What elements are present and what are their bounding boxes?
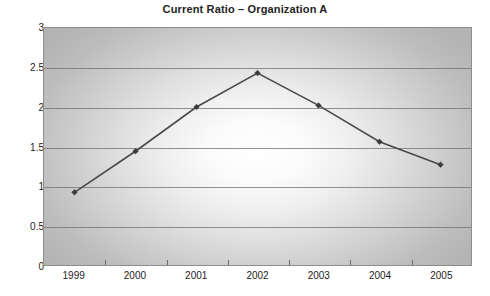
x-axis-tick-label: 2004: [350, 270, 410, 281]
chart-container: Current Ratio – Organization A 00.511.52…: [0, 0, 490, 296]
data-series: [44, 28, 471, 265]
x-axis-tick-label: 2000: [105, 270, 165, 281]
y-axis-tick-label: 2.5: [0, 61, 44, 72]
x-axis: 1999200020012002200320042005: [43, 270, 472, 286]
x-axis-tick-label: 2003: [289, 270, 349, 281]
series-line: [74, 73, 440, 192]
plot-area: [43, 27, 472, 266]
x-axis-tick-label: 2002: [228, 270, 288, 281]
x-axis-tick-label: 2001: [166, 270, 226, 281]
y-axis-tick-label: 0: [0, 261, 44, 272]
y-axis-tick-label: 1.5: [0, 141, 44, 152]
x-axis-tick-label: 2005: [411, 270, 471, 281]
chart-title: Current Ratio – Organization A: [0, 3, 490, 15]
y-axis-tick-label: 1: [0, 181, 44, 192]
y-axis-tick-label: 2: [0, 101, 44, 112]
x-axis-tick-label: 1999: [44, 270, 104, 281]
y-axis-tick-label: 0.5: [0, 221, 44, 232]
y-axis-tick-label: 3: [0, 22, 44, 33]
data-point-marker: [438, 162, 444, 168]
